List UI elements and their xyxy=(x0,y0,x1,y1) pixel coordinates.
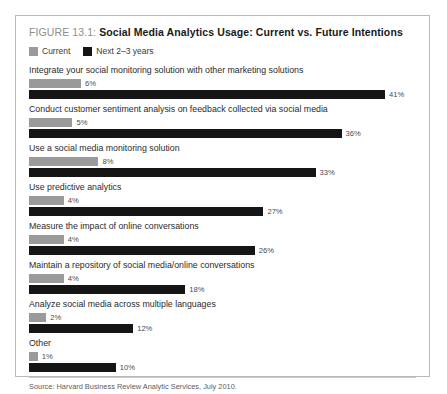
bar-value-label: 4% xyxy=(68,196,79,205)
source-note: Source: Harvard Business Review Analytic… xyxy=(29,378,416,391)
bar-chart-plot: Integrate your social monitoring solutio… xyxy=(29,65,416,372)
bar-group: Conduct customer sentiment analysis on f… xyxy=(29,104,416,138)
bar-value-label: 33% xyxy=(320,168,335,177)
bar-group: Measure the impact of online conversatio… xyxy=(29,221,416,255)
bar-row: 41% xyxy=(29,90,416,99)
bar-row: 2% xyxy=(29,313,416,322)
bar-current xyxy=(29,274,64,283)
figure-card: FIGURE 13.1: Social Media Analytics Usag… xyxy=(15,15,430,377)
bar-group: Use predictive analytics4%27% xyxy=(29,182,416,216)
bar-row: 5% xyxy=(29,118,416,127)
chart-legend: CurrentNext 2–3 years xyxy=(29,46,416,56)
figure-title-text: Social Media Analytics Usage: Current vs… xyxy=(99,26,403,38)
bar-value-label: 36% xyxy=(346,129,361,138)
bar-row: 18% xyxy=(29,285,416,294)
bar-row: 4% xyxy=(29,274,416,283)
bar-row: 10% xyxy=(29,363,416,372)
bar-current xyxy=(29,196,64,205)
legend-swatch-icon xyxy=(29,47,38,56)
bar-value-label: 2% xyxy=(50,313,61,322)
bar-current xyxy=(29,118,72,127)
bar-group-label: Use predictive analytics xyxy=(29,182,416,193)
bar-row: 4% xyxy=(29,235,416,244)
bar-value-label: 18% xyxy=(189,285,204,294)
legend-swatch-icon xyxy=(83,47,92,56)
bar-row: 36% xyxy=(29,129,416,138)
bar-future xyxy=(29,168,316,177)
bar-value-label: 41% xyxy=(389,90,404,99)
bar-group-label: Measure the impact of online conversatio… xyxy=(29,221,416,232)
bar-row: 33% xyxy=(29,168,416,177)
bar-group: Use a social media monitoring solution8%… xyxy=(29,143,416,177)
bar-future xyxy=(29,90,385,99)
bar-value-label: 12% xyxy=(137,324,152,333)
bar-group: Integrate your social monitoring solutio… xyxy=(29,65,416,99)
bar-value-label: 6% xyxy=(85,79,96,88)
bar-value-label: 10% xyxy=(120,363,135,372)
bar-current xyxy=(29,352,38,361)
bar-group: Analyze social media across multiple lan… xyxy=(29,299,416,333)
bar-group-label: Analyze social media across multiple lan… xyxy=(29,299,416,310)
bar-row: 1% xyxy=(29,352,416,361)
bar-future xyxy=(29,207,263,216)
bar-row: 27% xyxy=(29,207,416,216)
bar-group-label: Other xyxy=(29,338,416,349)
bar-future xyxy=(29,285,185,294)
bar-current xyxy=(29,235,64,244)
bar-value-label: 4% xyxy=(68,235,79,244)
figure-number: FIGURE 13.1: xyxy=(29,26,96,38)
legend-item-current: Current xyxy=(29,46,70,56)
bar-group-label: Integrate your social monitoring solutio… xyxy=(29,65,416,76)
bar-group: Other1%10% xyxy=(29,338,416,372)
bar-group: Maintain a repository of social media/on… xyxy=(29,260,416,294)
bar-value-label: 26% xyxy=(259,246,274,255)
bar-future xyxy=(29,246,255,255)
bar-group-label: Use a social media monitoring solution xyxy=(29,143,416,154)
bar-row: 12% xyxy=(29,324,416,333)
bar-value-label: 8% xyxy=(102,157,113,166)
bar-current xyxy=(29,313,46,322)
bar-value-label: 5% xyxy=(76,118,87,127)
legend-label: Next 2–3 years xyxy=(96,46,153,56)
bar-group-label: Maintain a repository of social media/on… xyxy=(29,260,416,271)
bar-future xyxy=(29,363,116,372)
legend-item-future: Next 2–3 years xyxy=(83,46,153,56)
bar-value-label: 27% xyxy=(267,207,282,216)
page-title: FIGURE 13.1: Social Media Analytics Usag… xyxy=(29,26,416,39)
bar-row: 4% xyxy=(29,196,416,205)
bar-row: 6% xyxy=(29,79,416,88)
bar-current xyxy=(29,79,81,88)
bar-row: 26% xyxy=(29,246,416,255)
bar-value-label: 1% xyxy=(42,352,53,361)
bar-value-label: 4% xyxy=(68,274,79,283)
legend-label: Current xyxy=(42,46,70,56)
bar-row: 8% xyxy=(29,157,416,166)
bar-future xyxy=(29,324,133,333)
bar-group-label: Conduct customer sentiment analysis on f… xyxy=(29,104,416,115)
bar-future xyxy=(29,129,342,138)
bar-current xyxy=(29,157,98,166)
